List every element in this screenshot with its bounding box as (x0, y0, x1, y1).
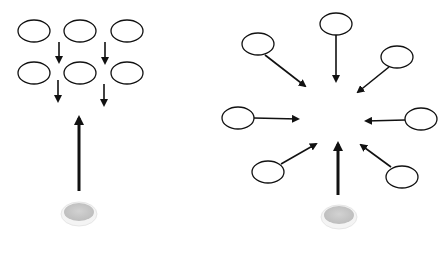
right-arrow-4 (366, 120, 405, 121)
right-arrow-6 (361, 145, 391, 167)
right-node-r-upper-right (381, 46, 413, 68)
right-arrow-3 (254, 118, 298, 119)
right-panel-converging-flow (222, 13, 437, 229)
right-arrow-2 (358, 67, 389, 92)
left-node-l-r2-c2 (64, 62, 96, 84)
left-node-l-r2-c3 (111, 62, 143, 84)
right-source-disc (324, 206, 354, 224)
right-node-r-mid-left (222, 107, 254, 129)
right-arrow-5 (281, 144, 316, 164)
left-node-l-r1-c3 (111, 20, 143, 42)
right-node-r-mid-right (405, 108, 437, 130)
left-node-l-r1-c2 (64, 20, 96, 42)
left-source-disc (64, 203, 94, 221)
left-node-l-r2-c1 (18, 62, 50, 84)
left-node-l-r1-c1 (18, 20, 50, 42)
right-arrow-1 (265, 55, 305, 86)
diagram-canvas (0, 0, 448, 268)
right-node-r-lower-right (386, 166, 418, 188)
right-node-r-upper-left (242, 33, 274, 55)
right-node-r-lower-left (252, 161, 284, 183)
right-node-r-top (320, 13, 352, 35)
left-panel-parallel-flow (18, 20, 143, 226)
